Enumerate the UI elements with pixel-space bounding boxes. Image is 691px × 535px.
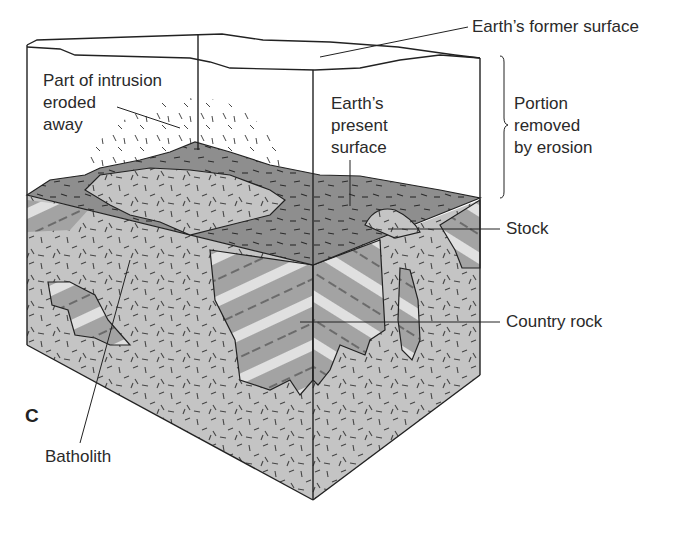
label-batholith: Batholith	[45, 446, 111, 468]
label-stock: Stock	[506, 218, 549, 240]
label-former-surface: Earth’s former surface	[472, 16, 639, 38]
label-portion-removed: Portion removed by erosion	[514, 93, 592, 159]
label-eroded-intrusion: Part of intrusion eroded away	[43, 70, 162, 136]
label-present-surface: Earth’s present surface	[331, 93, 388, 159]
label-country-rock: Country rock	[506, 311, 602, 333]
panel-letter: C	[25, 405, 39, 427]
